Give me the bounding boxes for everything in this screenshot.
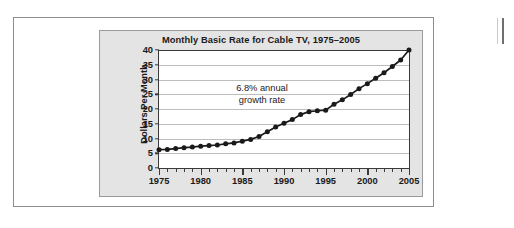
x-tick-minor xyxy=(292,168,293,172)
data-point xyxy=(157,147,162,152)
x-tick-minor xyxy=(317,168,318,172)
x-tick-major xyxy=(409,168,410,175)
data-point xyxy=(290,117,295,122)
y-tick-label: 25 xyxy=(143,89,153,99)
data-point xyxy=(232,140,237,145)
x-tick-minor xyxy=(276,168,277,172)
data-point xyxy=(215,142,220,147)
y-tick-label: 20 xyxy=(143,104,153,114)
data-point xyxy=(182,145,187,150)
x-tick-minor xyxy=(176,168,177,172)
data-point xyxy=(248,137,253,142)
x-tick-minor xyxy=(234,168,235,172)
x-tick-minor xyxy=(209,168,210,172)
x-tick-minor xyxy=(401,168,402,172)
x-tick-minor xyxy=(259,168,260,172)
x-tick-major xyxy=(284,168,285,175)
data-point xyxy=(265,129,270,134)
x-tick-major xyxy=(326,168,327,175)
data-point xyxy=(348,92,353,97)
chart-panel: Monthly Basic Rate for Cable TV, 1975–20… xyxy=(99,30,423,197)
y-tick-label: 5 xyxy=(148,148,153,158)
data-point xyxy=(390,64,395,69)
data-point xyxy=(207,143,212,148)
data-point xyxy=(398,58,403,63)
x-tick-label: 1975 xyxy=(149,176,170,186)
x-tick-label: 2000 xyxy=(357,176,378,186)
data-point xyxy=(223,141,228,146)
data-point xyxy=(257,134,262,139)
x-tick-label: 2005 xyxy=(399,176,420,186)
data-point xyxy=(198,144,203,149)
x-tick-minor xyxy=(342,168,343,172)
x-tick-minor xyxy=(184,168,185,172)
data-point xyxy=(332,102,337,107)
data-point xyxy=(190,145,195,150)
y-tick-label: 10 xyxy=(143,134,153,144)
data-point xyxy=(382,70,387,75)
page-edge-artifact xyxy=(502,18,504,44)
data-point xyxy=(173,146,178,151)
figure-frame: Monthly Basic Rate for Cable TV, 1975–20… xyxy=(13,17,434,207)
x-tick-major xyxy=(242,168,243,175)
x-tick-label: 1985 xyxy=(232,176,253,186)
x-tick-minor xyxy=(167,168,168,172)
data-series xyxy=(159,50,409,168)
x-tick-minor xyxy=(309,168,310,172)
data-point xyxy=(165,147,170,152)
x-tick-minor xyxy=(226,168,227,172)
data-point xyxy=(298,112,303,117)
x-tick-major xyxy=(159,168,160,175)
series-line xyxy=(159,50,409,150)
y-tick-label: 15 xyxy=(143,119,153,129)
x-tick-minor xyxy=(359,168,360,172)
y-tick-label: 30 xyxy=(143,75,153,85)
x-tick-minor xyxy=(384,168,385,172)
x-tick-label: 1995 xyxy=(315,176,336,186)
x-tick-major xyxy=(367,168,368,175)
page-edge-artifact-thin xyxy=(497,18,498,44)
x-tick-minor xyxy=(251,168,252,172)
x-tick-minor xyxy=(392,168,393,172)
x-tick-minor xyxy=(301,168,302,172)
series-markers xyxy=(157,48,412,153)
data-point xyxy=(240,139,245,144)
x-tick-minor xyxy=(217,168,218,172)
data-point xyxy=(282,121,287,126)
y-tick-label: 35 xyxy=(143,60,153,70)
data-point xyxy=(365,81,370,86)
data-point xyxy=(407,48,412,53)
x-tick-minor xyxy=(351,168,352,172)
x-tick-label: 1980 xyxy=(190,176,211,186)
x-tick-major xyxy=(201,168,202,175)
data-point xyxy=(340,97,345,102)
x-tick-minor xyxy=(376,168,377,172)
plot-inner: 0510152025303540 19751980198519901995200… xyxy=(159,50,409,168)
data-point xyxy=(307,109,312,114)
plot-area: 0510152025303540 19751980198519901995200… xyxy=(158,50,410,169)
y-tick-label: 0 xyxy=(148,163,153,173)
data-point xyxy=(273,125,278,130)
x-tick-minor xyxy=(192,168,193,172)
x-tick-minor xyxy=(267,168,268,172)
data-point xyxy=(373,76,378,81)
data-point xyxy=(357,86,362,91)
data-point xyxy=(323,108,328,113)
chart-title: Monthly Basic Rate for Cable TV, 1975–20… xyxy=(100,35,422,45)
x-tick-minor xyxy=(334,168,335,172)
x-tick-label: 1990 xyxy=(274,176,295,186)
data-point xyxy=(315,108,320,113)
y-tick-label: 40 xyxy=(143,45,153,55)
